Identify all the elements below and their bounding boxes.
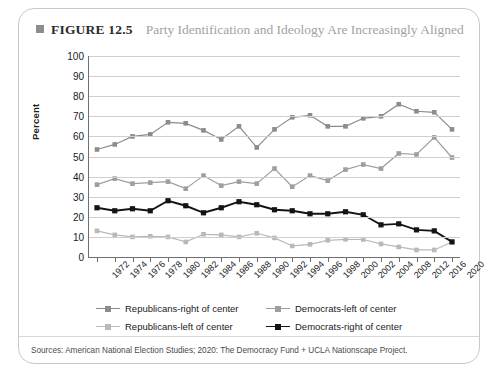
data-point-marker bbox=[308, 242, 313, 247]
data-point-marker bbox=[396, 151, 401, 156]
data-point-marker bbox=[166, 120, 171, 125]
data-point-marker bbox=[219, 205, 224, 210]
data-point-marker bbox=[414, 109, 419, 114]
x-tick-2008: 2008 bbox=[412, 259, 433, 280]
chart-legend: Republicans-right of centerDemocrats-lef… bbox=[96, 303, 426, 332]
data-point-marker bbox=[432, 228, 437, 233]
x-tick-2000: 2000 bbox=[358, 259, 379, 280]
data-point-marker bbox=[414, 248, 419, 253]
data-point-marker bbox=[237, 124, 242, 129]
y-tick-90: 90 bbox=[73, 71, 84, 82]
figure-header: FIGURE 12.5 Party Identification and Ide… bbox=[36, 22, 464, 38]
x-tick-2004: 2004 bbox=[394, 259, 415, 280]
gridline-40 bbox=[89, 177, 460, 178]
data-point-marker bbox=[378, 222, 383, 227]
legend-label: Democrats-right of center bbox=[295, 321, 402, 332]
data-point-marker bbox=[290, 244, 295, 249]
source-divider bbox=[19, 336, 479, 337]
gridline-90 bbox=[89, 76, 460, 77]
data-point-marker bbox=[183, 240, 188, 245]
data-point-marker bbox=[432, 110, 437, 115]
gridline-100 bbox=[89, 56, 460, 57]
data-point-marker bbox=[307, 211, 312, 216]
data-point-marker bbox=[432, 248, 437, 253]
data-point-marker bbox=[325, 211, 330, 216]
x-tick-1982: 1982 bbox=[199, 259, 220, 280]
data-point-marker bbox=[396, 102, 401, 107]
figure-bullet-square-icon bbox=[36, 25, 44, 33]
y-tick-10: 10 bbox=[73, 231, 84, 242]
figure-title: Party Identification and Ideology Are In… bbox=[140, 22, 464, 38]
x-tick-1978: 1978 bbox=[163, 259, 184, 280]
y-tick-40: 40 bbox=[73, 171, 84, 182]
x-tick-1994: 1994 bbox=[305, 259, 326, 280]
data-point-marker bbox=[325, 178, 330, 183]
data-point-marker bbox=[325, 124, 330, 129]
x-tick-1972: 1972 bbox=[110, 259, 131, 280]
gridline-70 bbox=[89, 116, 460, 117]
data-point-marker bbox=[361, 237, 366, 242]
data-point-marker bbox=[396, 245, 401, 250]
chart-plot-region: Percent 0102030405060708090100 197219741… bbox=[36, 56, 460, 271]
data-point-marker bbox=[112, 208, 117, 213]
y-tick-30: 30 bbox=[73, 191, 84, 202]
data-point-marker bbox=[95, 147, 100, 152]
data-point-marker bbox=[183, 121, 188, 126]
legend-item-2[interactable]: Republicans-left of center bbox=[96, 321, 266, 332]
legend-item-3[interactable]: Democrats-right of center bbox=[266, 321, 426, 332]
data-point-marker bbox=[343, 124, 348, 129]
legend-label: Republicans-right of center bbox=[125, 303, 239, 314]
data-point-marker bbox=[254, 231, 259, 236]
data-point-marker bbox=[95, 229, 100, 234]
x-tick-1974: 1974 bbox=[128, 259, 149, 280]
legend-swatch-icon bbox=[266, 304, 290, 313]
data-point-marker bbox=[396, 221, 401, 226]
figure-number-label: FIGURE 12.5 bbox=[51, 22, 133, 38]
x-tick-1990: 1990 bbox=[270, 259, 291, 280]
data-point-marker bbox=[236, 199, 241, 204]
data-point-marker bbox=[165, 198, 170, 203]
data-point-marker bbox=[254, 202, 259, 207]
data-point-marker bbox=[343, 209, 348, 214]
x-tick-1986: 1986 bbox=[234, 259, 255, 280]
data-point-marker bbox=[325, 238, 330, 243]
x-tick-1976: 1976 bbox=[145, 259, 166, 280]
x-axis-tick-labels: 1972197419761978198019821984198619881990… bbox=[89, 259, 460, 309]
gridline-10 bbox=[89, 237, 460, 238]
x-tick-1988: 1988 bbox=[252, 259, 273, 280]
gridline-80 bbox=[89, 96, 460, 97]
gridline-60 bbox=[89, 136, 460, 137]
data-point-marker bbox=[130, 181, 135, 186]
gridline-50 bbox=[89, 157, 460, 158]
data-point-marker bbox=[94, 205, 99, 210]
legend-item-0[interactable]: Republicans-right of center bbox=[96, 303, 266, 314]
y-tick-100: 100 bbox=[67, 51, 84, 62]
data-point-marker bbox=[148, 208, 153, 213]
data-point-marker bbox=[361, 162, 366, 167]
figure-panel: FIGURE 12.5 Party Identification and Ide… bbox=[0, 0, 490, 371]
x-tick-1984: 1984 bbox=[216, 259, 237, 280]
source-note: Sources: American National Election Stud… bbox=[31, 346, 407, 355]
data-point-marker bbox=[272, 207, 277, 212]
legend-swatch-icon bbox=[266, 322, 290, 331]
gridline-30 bbox=[89, 197, 460, 198]
data-point-marker bbox=[343, 167, 348, 172]
data-point-marker bbox=[272, 166, 277, 171]
data-point-marker bbox=[130, 206, 135, 211]
legend-swatch-icon bbox=[96, 304, 120, 313]
data-point-marker bbox=[112, 142, 117, 147]
data-point-marker bbox=[414, 227, 419, 232]
data-point-marker bbox=[201, 128, 206, 133]
data-point-marker bbox=[166, 179, 171, 184]
series-line-0 bbox=[97, 104, 452, 149]
data-point-marker bbox=[450, 127, 455, 132]
data-point-marker bbox=[379, 242, 384, 247]
legend-label: Democrats-left of center bbox=[295, 303, 396, 314]
data-point-marker bbox=[290, 208, 295, 213]
data-point-marker bbox=[95, 182, 100, 187]
y-tick-70: 70 bbox=[73, 111, 84, 122]
y-tick-80: 80 bbox=[73, 91, 84, 102]
y-axis-title: Percent bbox=[30, 104, 41, 140]
y-tick-50: 50 bbox=[73, 151, 84, 162]
legend-item-1[interactable]: Democrats-left of center bbox=[266, 303, 426, 314]
